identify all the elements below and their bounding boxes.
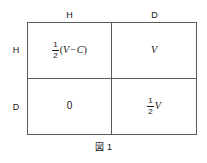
- fraction-numerator: 1: [52, 41, 58, 51]
- expression-half-v-minus-c: 1 2 ( V − C ): [52, 41, 87, 60]
- cell-dove-hawk: 0: [28, 79, 112, 135]
- cell-hawk-hawk: 1 2 ( V − C ): [28, 23, 112, 79]
- cell-dove-dove: 1 2 V: [112, 79, 196, 135]
- payoff-matrix-figure: H D H D 1 2 ( V − C ) V: [0, 0, 207, 163]
- fraction-denominator: 2: [52, 51, 58, 60]
- fraction-denominator: 2: [147, 107, 153, 116]
- variable-v: V: [155, 101, 161, 111]
- minus-operator: −: [69, 45, 77, 55]
- cell-hawk-dove: V: [112, 23, 196, 79]
- row-header-column: H D: [5, 22, 27, 135]
- payoff-matrix-grid: 1 2 ( V − C ) V 0 1 2: [27, 22, 197, 135]
- caption-label: 図: [95, 142, 104, 152]
- value-zero: 0: [67, 101, 73, 111]
- column-header-row: H D: [27, 7, 197, 22]
- variable-v: V: [151, 45, 157, 55]
- column-header-d: D: [112, 7, 197, 22]
- fraction-one-half: 1 2: [52, 41, 58, 60]
- row-header-h: H: [5, 22, 27, 79]
- paren-close: ): [83, 45, 86, 55]
- fraction-numerator: 1: [147, 97, 153, 107]
- figure-caption: 図1: [0, 140, 207, 153]
- fraction-one-half: 1 2: [147, 97, 153, 116]
- variable-c: C: [77, 45, 84, 55]
- column-header-h: H: [27, 7, 112, 22]
- expression-v: V: [151, 45, 157, 55]
- expression-zero: 0: [67, 101, 73, 111]
- row-header-d: D: [5, 79, 27, 136]
- caption-number: 1: [107, 142, 112, 152]
- expression-half-v: 1 2 V: [147, 97, 161, 116]
